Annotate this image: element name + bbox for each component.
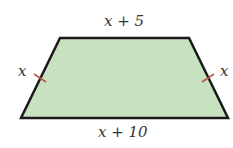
top-base-label: x + 5	[104, 12, 144, 30]
trapezoid-shape	[21, 38, 228, 118]
right-leg-label: x	[220, 62, 228, 80]
bottom-base-label: x + 10	[98, 123, 148, 141]
left-leg-label: x	[18, 62, 26, 80]
